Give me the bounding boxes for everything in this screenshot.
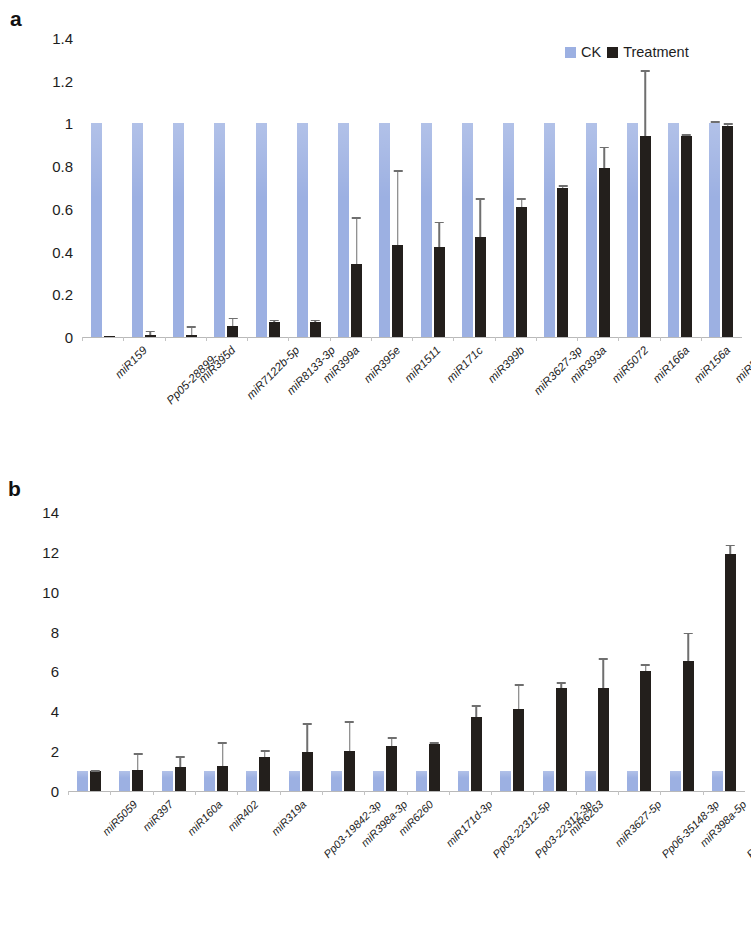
x-axis-tick	[533, 791, 534, 795]
y-axis-tick-label: 14	[42, 504, 59, 521]
panel-b-letter: b	[8, 478, 21, 499]
bar-ck	[503, 123, 514, 337]
y-axis-tick-label: 1.2	[52, 72, 73, 89]
bar-ck	[297, 123, 308, 337]
bar-treatment	[227, 326, 238, 337]
bar-treatment	[90, 771, 101, 791]
bar-group	[618, 38, 659, 337]
x-axis-label-cell: miR166a	[618, 337, 659, 338]
x-axis-tick	[412, 337, 413, 341]
error-bar	[645, 664, 647, 671]
bar-treatment	[513, 709, 524, 791]
x-axis-label-cell: miR156a	[660, 337, 701, 338]
bar-group	[536, 38, 577, 337]
error-bar	[433, 742, 435, 744]
figure: a CK Treatment miR159Pp05-28899-...miR39…	[0, 0, 751, 935]
x-axis-label-cell: miR5059	[68, 791, 110, 792]
y-axis-tick-label: 6	[51, 663, 59, 680]
x-axis-tick	[123, 337, 124, 341]
y-axis-tick-label: 0.8	[52, 158, 73, 175]
y-axis-tick-label: 0	[65, 329, 73, 346]
bar-ck	[627, 123, 638, 337]
bar-ck	[331, 771, 342, 791]
x-axis-label: miR159	[112, 344, 149, 381]
x-axis-label-cell: miR171d-3p	[407, 791, 449, 792]
panel-b: b miR5059miR397miR160amiR402miR319aPp03-…	[0, 460, 751, 935]
bar-group	[453, 38, 494, 337]
x-axis-tick	[280, 791, 281, 795]
bar-group	[660, 512, 702, 791]
bar-group	[577, 38, 618, 337]
bar-treatment	[556, 688, 567, 791]
error-bar	[645, 70, 647, 136]
bar-treatment	[725, 554, 736, 791]
bar-treatment	[429, 744, 440, 791]
x-axis-tick	[364, 791, 365, 795]
bar-groups-b	[68, 512, 745, 791]
x-axis-tick	[165, 337, 166, 341]
bar-treatment	[640, 671, 651, 791]
error-bar	[180, 756, 182, 767]
error-bar	[191, 326, 193, 335]
bar-treatment	[386, 746, 397, 791]
bar-group	[701, 38, 742, 337]
bar-ck	[544, 123, 555, 337]
bar-ck	[586, 123, 597, 337]
bar-group	[237, 512, 279, 791]
bar-ck	[627, 771, 638, 791]
x-axis-label-cell: miR3627-3p	[495, 337, 536, 338]
y-axis-tick-label: 10	[42, 583, 59, 600]
x-axis-label-cell: Pp03-22312-3p	[491, 791, 533, 792]
bar-treatment	[475, 237, 486, 337]
bar-treatment	[259, 757, 270, 791]
x-axis-label-cell: miR319a	[237, 791, 279, 792]
bar-ck	[338, 123, 349, 337]
y-axis-tick-label: 0	[51, 783, 59, 800]
x-axis-label: miR397	[141, 798, 176, 833]
bar-ck	[77, 771, 88, 791]
bar-group	[495, 38, 536, 337]
bar-group	[195, 512, 237, 791]
error-bar	[560, 682, 562, 688]
error-bar	[306, 723, 308, 752]
error-bar	[727, 123, 729, 125]
panel-a-letter: a	[10, 8, 22, 29]
bar-treatment	[598, 688, 609, 791]
error-bar	[687, 633, 689, 662]
x-axis-tick	[701, 337, 702, 341]
bar-treatment	[557, 188, 568, 338]
bar-groups-a	[82, 38, 742, 337]
bar-group	[703, 512, 745, 791]
bar-group	[206, 38, 247, 337]
error-bar	[603, 658, 605, 688]
x-axis-label: miR1511	[403, 344, 443, 384]
x-axis-tick	[247, 337, 248, 341]
error-bar	[476, 705, 478, 717]
x-axis-label-cell: miR393a	[536, 337, 577, 338]
x-axis-tick	[453, 337, 454, 341]
x-axis-tick	[449, 791, 450, 795]
error-bar	[730, 545, 732, 554]
bar-group	[322, 512, 364, 791]
x-axis-label: miR171c	[444, 344, 485, 385]
bar-treatment	[471, 717, 482, 791]
x-axis-label: miR156a	[692, 344, 733, 385]
bar-treatment	[599, 168, 610, 337]
bar-treatment	[516, 207, 527, 337]
bar-treatment	[302, 752, 313, 791]
y-axis-tick-label: 0.4	[52, 243, 73, 260]
x-axis-label-cell: miR395d	[165, 337, 206, 338]
bar-group	[449, 512, 491, 791]
x-axis-label-cell: miR3627-5p	[576, 791, 618, 792]
x-axis-label: miR5072	[609, 344, 650, 385]
error-bar	[95, 770, 97, 771]
y-axis-tick-label: 12	[42, 543, 59, 560]
bar-ck	[246, 771, 257, 791]
x-axis-label: miR160a	[185, 798, 225, 838]
bar-treatment	[681, 136, 692, 337]
panel-a: a CK Treatment miR159Pp05-28899-...miR39…	[0, 0, 751, 470]
bar-ck	[500, 771, 511, 791]
bar-treatment	[683, 661, 694, 791]
bar-treatment	[351, 264, 362, 337]
x-axis-label-cell: miR402	[195, 791, 237, 792]
